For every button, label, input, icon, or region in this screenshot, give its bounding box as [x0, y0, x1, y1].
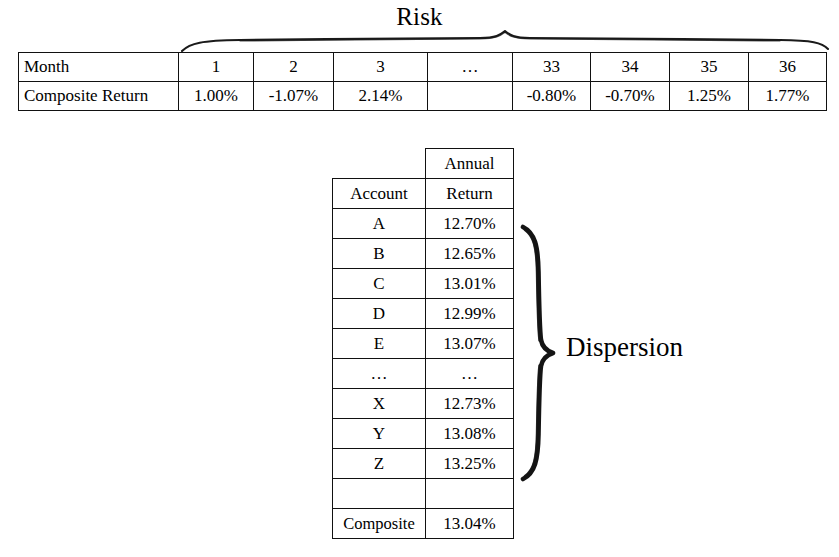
composite-account-label: Composite	[332, 508, 426, 539]
account-cell: Y	[332, 418, 426, 449]
month-cell-36: 36	[749, 53, 827, 82]
month-cell-35: 35	[670, 53, 749, 82]
table-row: Month 1 2 3 … 33 34 35 36	[19, 53, 827, 82]
annual-return-cell: 13.01%	[425, 268, 514, 299]
composite-return-cell-33: -0.80%	[513, 82, 591, 111]
annual-return-cell: 13.08%	[425, 418, 514, 449]
account-cell: A	[332, 208, 426, 239]
account-cell: Z	[332, 448, 426, 479]
composite-return-cell-35: 1.25%	[670, 82, 749, 111]
month-cell-3: 3	[334, 53, 428, 82]
account-cell-blank	[332, 478, 426, 509]
composite-return-row-header: Composite Return	[19, 82, 179, 111]
account-annual-return-table: Annual Account Return A 12.70% B 12.65% …	[332, 148, 514, 540]
diagram-canvas: Risk Month 1 2 3 … 33 34 35 36 Composite…	[0, 0, 839, 557]
annual-return-cell: 13.07%	[425, 328, 514, 359]
composite-return-cell-36: 1.77%	[749, 82, 827, 111]
month-cell-34: 34	[591, 53, 670, 82]
annual-return-cell: 12.70%	[425, 208, 514, 239]
account-cell: X	[332, 388, 426, 419]
horizontal-curly-brace-icon	[180, 30, 830, 52]
account-cell: E	[332, 328, 426, 359]
account-cell: D	[332, 298, 426, 329]
month-cell-33: 33	[513, 53, 591, 82]
account-cell: B	[332, 238, 426, 269]
annual-return-cell: 12.73%	[425, 388, 514, 419]
composite-annual-return: 13.04%	[425, 508, 514, 539]
composite-return-cell-1: 1.00%	[179, 82, 254, 111]
annual-return-cell: 12.65%	[425, 238, 514, 269]
composite-return-cell-34: -0.70%	[591, 82, 670, 111]
month-row-header: Month	[19, 53, 179, 82]
composite-return-cell-3: 2.14%	[334, 82, 428, 111]
account-cell: C	[332, 268, 426, 299]
annual-return-cell: …	[425, 358, 514, 389]
month-cell-1: 1	[179, 53, 254, 82]
annual-return-header-line2: Return	[425, 178, 514, 209]
composite-return-cell-2: -1.07%	[254, 82, 334, 111]
annual-return-cell: 12.99%	[425, 298, 514, 329]
account-cell: …	[332, 358, 426, 389]
annual-return-header-line1: Annual	[425, 148, 514, 179]
month-cell-2: 2	[254, 53, 334, 82]
vertical-curly-brace-icon	[516, 224, 564, 482]
account-header: Account	[332, 178, 426, 209]
composite-return-cell-ellipsis	[428, 82, 513, 111]
table-row: Composite Return 1.00% -1.07% 2.14% -0.8…	[19, 82, 827, 111]
annual-return-cell-blank	[425, 478, 514, 509]
dispersion-annotation-label: Dispersion	[566, 330, 683, 364]
monthly-composite-return-table: Month 1 2 3 … 33 34 35 36 Composite Retu…	[18, 52, 827, 111]
risk-annotation-label: Risk	[0, 2, 839, 32]
month-cell-ellipsis: …	[428, 53, 513, 82]
annual-return-cell: 13.25%	[425, 448, 514, 479]
